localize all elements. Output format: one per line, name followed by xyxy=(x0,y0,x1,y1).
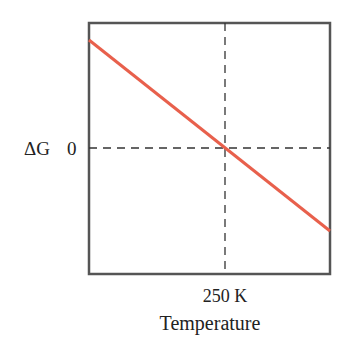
y-axis-label: ΔG xyxy=(24,138,50,159)
chart-canvas: ΔG 0 250 K Temperature xyxy=(0,0,343,339)
x-tick-250k: 250 K xyxy=(203,286,248,306)
plot-frame xyxy=(89,23,330,274)
y-tick-zero: 0 xyxy=(67,138,77,159)
x-axis-label: Temperature xyxy=(160,312,261,335)
